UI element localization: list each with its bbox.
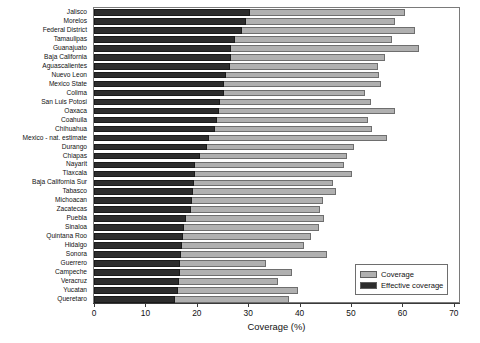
y-axis-tick-label: Queretaro bbox=[0, 295, 90, 304]
bar-effective-coverage bbox=[94, 180, 194, 187]
y-axis-tick-label: Zacatecas bbox=[0, 205, 90, 214]
y-axis-tick-label: Durango bbox=[0, 143, 90, 152]
bar-row bbox=[94, 98, 459, 107]
bar-effective-coverage bbox=[94, 90, 224, 97]
bar-row bbox=[94, 134, 459, 143]
y-axis-tick-label: Mexico - nat. estimate bbox=[0, 134, 90, 143]
bar-row bbox=[94, 250, 459, 259]
bar-effective-coverage bbox=[94, 278, 179, 285]
y-axis-tick-label: Yucatan bbox=[0, 286, 90, 295]
bar-effective-coverage bbox=[94, 9, 250, 16]
bar-row bbox=[94, 80, 459, 89]
bar-effective-coverage bbox=[94, 27, 242, 34]
bar-effective-coverage bbox=[94, 260, 180, 267]
y-axis-tick-label: Hidalgo bbox=[0, 241, 90, 250]
bar-effective-coverage bbox=[94, 206, 191, 213]
bar-row bbox=[94, 116, 459, 125]
x-axis-tick bbox=[300, 303, 301, 307]
bar-effective-coverage bbox=[94, 108, 219, 115]
bar-row bbox=[94, 169, 459, 178]
bar-row bbox=[94, 241, 459, 250]
y-axis-tick-label: Colima bbox=[0, 89, 90, 98]
bar-row bbox=[94, 26, 459, 35]
y-axis-tick-label: Mexico State bbox=[0, 80, 90, 89]
x-axis-tick-label: 40 bbox=[295, 308, 304, 318]
bar-row bbox=[94, 44, 459, 53]
legend-swatch-coverage bbox=[360, 271, 377, 278]
y-axis-tick-label: Puebla bbox=[0, 214, 90, 223]
bar-effective-coverage bbox=[94, 269, 180, 276]
bar-row bbox=[94, 53, 459, 62]
y-axis-tick-label: Campeche bbox=[0, 268, 90, 277]
bar-effective-coverage bbox=[94, 251, 181, 258]
y-axis-tick-label: Chiapas bbox=[0, 152, 90, 161]
legend-label-effective-coverage: Effective coverage bbox=[381, 281, 443, 290]
x-axis-tick bbox=[402, 303, 403, 307]
x-axis-tick-label: 0 bbox=[92, 308, 97, 318]
bar-effective-coverage bbox=[94, 215, 186, 222]
y-axis-tick-label: Nuevo Leon bbox=[0, 71, 90, 80]
y-axis-tick-label: San Luis Potosi bbox=[0, 98, 90, 107]
y-axis-tick-label: Quintana Roo bbox=[0, 232, 90, 241]
y-axis-tick-label: Sonora bbox=[0, 250, 90, 259]
chart-legend: Coverage Effective coverage bbox=[355, 264, 448, 295]
bar-effective-coverage bbox=[94, 171, 195, 178]
bar-effective-coverage bbox=[94, 287, 178, 294]
x-axis-tick bbox=[197, 303, 198, 307]
bar-row bbox=[94, 223, 459, 232]
legend-item-coverage: Coverage bbox=[360, 269, 443, 279]
bar-row bbox=[94, 71, 459, 80]
legend-item-effective-coverage: Effective coverage bbox=[360, 280, 443, 290]
chart-figure: JaliscoMorelosFederal DistrictTamaulipas… bbox=[0, 0, 480, 343]
bar-effective-coverage bbox=[94, 197, 192, 204]
bar-row bbox=[94, 125, 459, 134]
bar-row bbox=[94, 8, 459, 17]
y-axis-tick-label: Guerrero bbox=[0, 259, 90, 268]
y-axis-tick-label: Tamaulipas bbox=[0, 35, 90, 44]
y-axis-tick-label: Chihuahua bbox=[0, 125, 90, 134]
y-axis-tick-label: Veracruz bbox=[0, 277, 90, 286]
y-axis-tick-label: Nayarit bbox=[0, 160, 90, 169]
bar-row bbox=[94, 152, 459, 161]
y-axis-tick-label: Morelos bbox=[0, 17, 90, 26]
bar-row bbox=[94, 205, 459, 214]
bar-effective-coverage bbox=[94, 36, 235, 43]
bar-effective-coverage bbox=[94, 72, 226, 79]
bar-row bbox=[94, 89, 459, 98]
y-axis-tick-label: Tabasco bbox=[0, 187, 90, 196]
bar-row bbox=[94, 35, 459, 44]
bar-effective-coverage bbox=[94, 45, 231, 52]
bar-effective-coverage bbox=[94, 242, 182, 249]
bar-effective-coverage bbox=[94, 224, 184, 231]
x-axis-tick bbox=[351, 303, 352, 307]
bar-row bbox=[94, 17, 459, 26]
y-axis-tick-label: Baja California Sur bbox=[0, 178, 90, 187]
bar-effective-coverage bbox=[94, 188, 193, 195]
y-axis-tick-label: Guanajuato bbox=[0, 44, 90, 53]
bar-row bbox=[94, 196, 459, 205]
x-axis-tick bbox=[454, 303, 455, 307]
bar-effective-coverage bbox=[94, 81, 224, 88]
x-axis-tick-label: 30 bbox=[244, 308, 253, 318]
y-axis-tick-label: Federal District bbox=[0, 26, 90, 35]
bar-effective-coverage bbox=[94, 99, 220, 106]
x-axis-tick-label: 10 bbox=[141, 308, 150, 318]
legend-swatch-effective-coverage bbox=[360, 282, 377, 289]
x-axis-tick-label: 60 bbox=[398, 308, 407, 318]
bar-effective-coverage bbox=[94, 144, 207, 151]
y-axis-labels: JaliscoMorelosFederal DistrictTamaulipas… bbox=[0, 8, 90, 295]
y-axis-tick-label: Baja California bbox=[0, 53, 90, 62]
x-axis: 010203040506070 Coverage (%) bbox=[93, 303, 460, 343]
bar-row bbox=[94, 178, 459, 187]
x-axis-tick-label: 50 bbox=[346, 308, 355, 318]
y-axis-tick-label: Tlaxcala bbox=[0, 169, 90, 178]
bar-effective-coverage bbox=[94, 162, 195, 169]
bar-row bbox=[94, 232, 459, 241]
legend-label-coverage: Coverage bbox=[381, 270, 414, 279]
bar-effective-coverage bbox=[94, 18, 246, 25]
bar-effective-coverage bbox=[94, 233, 183, 240]
x-axis-title: Coverage (%) bbox=[93, 321, 460, 332]
x-axis-tick bbox=[248, 303, 249, 307]
bar-effective-coverage bbox=[94, 126, 215, 133]
x-axis-tick-label: 70 bbox=[449, 308, 458, 318]
